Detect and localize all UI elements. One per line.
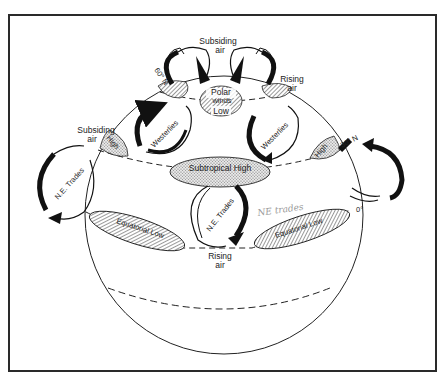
label-lat-0: 0° xyxy=(356,205,363,214)
label-ne-trades-center: N.E. Trades xyxy=(204,196,236,233)
label-top-subsiding-air-2: air xyxy=(215,45,225,55)
hadley-right-arrows-icon xyxy=(340,138,402,201)
label-ne-trades-left: N.E. Trades xyxy=(53,166,86,202)
lat-south-line xyxy=(108,288,330,309)
handwritten-note: NE trades xyxy=(256,202,305,219)
label-rising-air-bottom-2: air xyxy=(215,260,225,270)
label-polar-2: winds xyxy=(211,96,231,105)
label-lat-30: 30° N xyxy=(339,133,360,150)
label-left-subsiding-air-2: air xyxy=(87,134,97,144)
label-rising-air-top-2: air xyxy=(287,83,297,93)
label-polar-low: Low xyxy=(213,106,229,116)
label-westerlies-right: Westerlies xyxy=(259,120,290,151)
label-subtropical-high: Subtropical High xyxy=(189,163,252,173)
circulation-diagram: Subsiding air Polar winds Low Rising air… xyxy=(0,0,445,381)
